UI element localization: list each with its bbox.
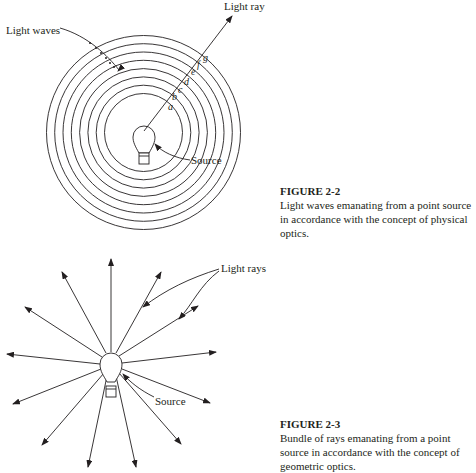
point-g: g	[203, 52, 208, 63]
figure-2-2-caption: FIGURE 2-2 Light waves emanating from a …	[280, 184, 476, 240]
point-b: b	[172, 91, 177, 102]
figure-2-3-caption: FIGURE 2-3 Bundle of rays emanating from…	[280, 417, 476, 473]
figure-2-2-caption-text: Light waves emanating from a point sourc…	[280, 198, 476, 240]
light-rays-label: Light rays	[221, 262, 266, 274]
source-leader-2-3	[123, 374, 154, 397]
source-label-2-2: Source	[191, 154, 222, 166]
light-bulb-icon	[100, 353, 122, 397]
point-e: e	[191, 66, 196, 77]
source-leader	[155, 144, 190, 160]
wave-crossing-dots	[89, 42, 115, 68]
figure-2-3-title: FIGURE 2-3	[280, 417, 476, 431]
light-waves-label: Light waves	[6, 24, 60, 36]
wavefront-point-labels: a b c d e f g	[168, 52, 208, 112]
light-rays-leader-2	[179, 271, 219, 319]
figure-2-3-caption-text: Bundle of rays emanating from a point so…	[280, 431, 476, 473]
source-label-2-3: Source	[155, 395, 186, 407]
figure-2-2-title: FIGURE 2-2	[280, 184, 476, 198]
figure-2-2-diagram	[47, 16, 241, 230]
point-d: d	[184, 76, 190, 87]
figure-2-3-diagram	[7, 259, 219, 467]
light-ray-arrow	[144, 16, 232, 131]
point-c: c	[178, 84, 183, 95]
light-rays-leader-1	[143, 269, 219, 307]
light-bulb-icon	[133, 126, 155, 164]
light-ray-label: Light ray	[224, 0, 265, 12]
point-a: a	[168, 101, 173, 112]
